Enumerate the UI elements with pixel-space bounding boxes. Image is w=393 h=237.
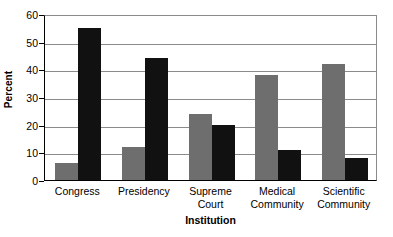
y-tick-label: 10 (14, 148, 38, 158)
bar (212, 125, 235, 180)
y-tick-label: 50 (14, 38, 38, 48)
plot-area (44, 15, 377, 181)
x-tick-label: Supreme Court (177, 185, 244, 210)
y-tick-label: 0 (14, 176, 38, 186)
y-tick-mark (39, 181, 44, 182)
bar-group (322, 16, 368, 180)
x-tick-label: Scientific Community (310, 185, 377, 210)
bar-group (55, 16, 101, 180)
x-tick-label: Presidency (111, 185, 178, 198)
bar (78, 28, 101, 180)
bar (145, 58, 168, 180)
x-axis-tick-labels: CongressPresidencySupreme CourtMedical C… (44, 185, 377, 215)
x-tick-label: Medical Community (244, 185, 311, 210)
bar (55, 163, 78, 180)
bar-group (255, 16, 301, 180)
bar (345, 158, 368, 180)
y-axis-tick-labels: 0102030405060 (14, 0, 38, 237)
y-tick-label: 40 (14, 65, 38, 75)
bar (278, 150, 301, 180)
y-axis-title: Percent (3, 60, 14, 120)
bar (122, 147, 145, 180)
x-axis-title: Institution (44, 214, 377, 226)
bar-group (122, 16, 168, 180)
bar (322, 64, 345, 180)
bar (255, 75, 278, 180)
x-tick-label: Congress (44, 185, 111, 198)
y-tick-label: 30 (14, 93, 38, 103)
bars-layer (45, 16, 376, 180)
bar-group (189, 16, 235, 180)
bar-chart: Percent 0102030405060 CongressPresidency… (0, 0, 393, 237)
y-tick-label: 20 (14, 121, 38, 131)
y-tick-label: 60 (14, 10, 38, 20)
bar (189, 114, 212, 180)
